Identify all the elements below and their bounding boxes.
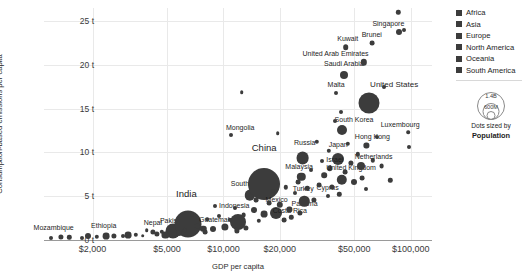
data-point-label: Russia <box>294 139 315 146</box>
data-point[interactable] <box>320 159 324 163</box>
gridline-horizontal <box>44 196 432 197</box>
data-point-netherlands[interactable] <box>357 162 365 170</box>
data-point-south-korea[interactable] <box>337 125 347 135</box>
data-point[interactable] <box>234 228 239 233</box>
data-point[interactable] <box>396 10 400 14</box>
data-point[interactable] <box>154 231 159 236</box>
data-point[interactable] <box>345 141 349 145</box>
data-point-united-states[interactable] <box>359 92 380 113</box>
data-point-panama[interactable] <box>297 210 302 215</box>
data-point[interactable] <box>67 235 71 239</box>
data-point[interactable] <box>217 214 221 218</box>
data-point[interactable] <box>364 187 368 191</box>
data-point-mongolia[interactable] <box>229 133 233 137</box>
legend-swatch-icon <box>456 33 462 39</box>
data-point-turkey[interactable] <box>299 196 309 206</box>
data-point[interactable] <box>206 217 210 221</box>
data-point-malta[interactable] <box>334 91 338 95</box>
data-point[interactable] <box>261 210 268 217</box>
data-point[interactable] <box>125 232 132 239</box>
data-point[interactable] <box>94 235 98 239</box>
data-point[interactable] <box>194 224 199 229</box>
data-point-saudi-arabia[interactable] <box>340 71 348 79</box>
data-point-luxembourg[interactable] <box>406 131 410 135</box>
data-point[interactable] <box>203 230 208 235</box>
data-point[interactable] <box>315 140 319 144</box>
data-point[interactable] <box>360 175 365 180</box>
data-point-costa-rica[interactable] <box>281 217 286 222</box>
data-point[interactable] <box>309 168 313 172</box>
data-point[interactable] <box>287 207 292 212</box>
data-point-mozambique[interactable] <box>58 234 63 239</box>
data-point[interactable] <box>241 213 246 218</box>
data-point[interactable] <box>375 135 379 139</box>
data-point[interactable] <box>293 191 297 195</box>
legend-swatch-icon <box>456 56 462 62</box>
data-point[interactable] <box>111 233 116 238</box>
data-point-brunei[interactable] <box>369 41 374 46</box>
data-point[interactable] <box>134 233 138 237</box>
data-point[interactable] <box>333 119 337 123</box>
data-point-mexico[interactable] <box>270 207 282 219</box>
data-point[interactable] <box>317 182 322 187</box>
data-point-hong-kong[interactable] <box>364 143 369 148</box>
data-point-united-kingdom[interactable] <box>337 174 347 184</box>
data-point[interactable] <box>251 207 257 213</box>
data-point[interactable] <box>348 160 353 165</box>
data-point[interactable] <box>176 230 182 236</box>
data-point[interactable] <box>80 236 84 240</box>
legend-swatch-icon <box>456 21 462 27</box>
data-point[interactable] <box>296 180 301 185</box>
legend-item-north-america[interactable]: North America <box>456 43 528 52</box>
data-point[interactable] <box>388 178 392 182</box>
data-point-ethiopia[interactable] <box>102 233 109 240</box>
legend-item-europe[interactable]: Europe <box>456 31 528 40</box>
data-point-russia[interactable] <box>296 151 309 164</box>
data-point[interactable] <box>49 236 53 240</box>
gridline-horizontal <box>44 152 432 153</box>
data-point[interactable] <box>371 158 375 162</box>
data-point[interactable] <box>355 152 359 156</box>
legend-item-oceania[interactable]: Oceania <box>456 54 528 63</box>
data-point[interactable] <box>339 110 343 114</box>
data-point[interactable] <box>190 213 194 217</box>
x-axis-tick-label: $5,000 <box>153 244 181 254</box>
data-point[interactable] <box>379 164 384 169</box>
data-point[interactable] <box>267 201 272 206</box>
data-point-japan[interactable] <box>332 153 344 165</box>
data-point-guatemala[interactable] <box>210 226 216 232</box>
data-point[interactable] <box>141 234 145 238</box>
data-point[interactable] <box>342 169 347 174</box>
data-point[interactable] <box>305 186 309 190</box>
legend-item-africa[interactable]: Africa <box>456 8 528 17</box>
data-point[interactable] <box>312 197 317 202</box>
data-point[interactable] <box>289 215 293 219</box>
data-point[interactable] <box>271 189 275 193</box>
legend-divider <box>456 80 522 81</box>
data-point[interactable] <box>257 219 261 223</box>
legend-item-asia[interactable]: Asia <box>456 20 528 29</box>
legend-item-south-america[interactable]: South America <box>456 66 528 75</box>
data-point-israel[interactable] <box>327 165 333 171</box>
data-point[interactable] <box>407 145 411 149</box>
data-point[interactable] <box>233 206 237 210</box>
data-point[interactable] <box>351 179 357 185</box>
data-point[interactable] <box>145 228 149 232</box>
data-point[interactable] <box>213 204 217 208</box>
legend-item-label: North America <box>466 43 514 52</box>
data-point[interactable] <box>382 85 386 89</box>
data-point[interactable] <box>276 131 280 135</box>
data-point[interactable] <box>221 223 228 230</box>
data-point[interactable] <box>254 197 259 202</box>
data-point-kuwait[interactable] <box>343 45 349 51</box>
data-point-china[interactable] <box>248 168 280 200</box>
data-point[interactable] <box>402 28 406 32</box>
data-point[interactable] <box>283 185 287 189</box>
data-point[interactable] <box>240 90 244 94</box>
data-point[interactable] <box>243 225 248 230</box>
data-point[interactable] <box>329 184 334 189</box>
data-point[interactable] <box>277 202 283 208</box>
data-point-cyprus[interactable] <box>326 194 330 198</box>
data-point[interactable] <box>321 172 327 178</box>
size-legend-caption: Dots sized by Population <box>456 122 526 141</box>
